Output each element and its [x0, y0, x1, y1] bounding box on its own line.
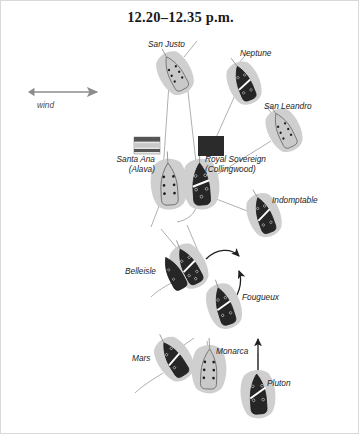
- ship-label-neptune: Neptune: [240, 48, 271, 58]
- ship-neptune[interactable]: [219, 51, 267, 109]
- royal-sovereign-flag: [198, 136, 224, 156]
- track-line-mars-mast: [184, 338, 194, 345]
- ship-label-san-justo: San Justo: [148, 39, 185, 49]
- track-line-mars-wake: [135, 373, 163, 393]
- ship-san-justo[interactable]: [148, 41, 200, 100]
- battle-map-canvas: [1, 1, 359, 434]
- diagram-page: 12.20–12.35 p.m.: [0, 0, 359, 434]
- ship-indomptable[interactable]: [240, 184, 287, 242]
- track-line-san-justo-b: [187, 83, 197, 171]
- ship-label-santa-ana-name: Santa Ana: [99, 154, 155, 164]
- ship-label-indomptable: Indomptable: [272, 195, 318, 205]
- track-line-san-justo-a: [163, 84, 169, 171]
- ship-pluton[interactable]: [239, 369, 277, 420]
- ship-label-monarca: Monarca: [216, 346, 248, 356]
- ship-label-belleisle: Belleisle: [125, 266, 156, 276]
- ship-label-fougueux: Fougueux: [242, 292, 279, 302]
- ship-label-pluton: Pluton: [267, 378, 291, 388]
- santa-ana-flag: [134, 137, 160, 154]
- wind-label: wind: [37, 100, 54, 110]
- ship-label-royal-sovereign: Royal Sovereign (Collingwood): [205, 154, 266, 175]
- track-line-san-justo-mast: [184, 41, 197, 57]
- ship-label-san-leandro: San Leandro: [264, 101, 312, 111]
- ship-label-santa-ana-captain: (Alava): [99, 164, 155, 174]
- ship-label-santa-ana: Santa Ana (Alava): [99, 154, 155, 175]
- ship-label-royal-sovereign-name: Royal Sovereign: [205, 154, 266, 164]
- belleisle-turn-arrow: [206, 250, 239, 259]
- ship-mars[interactable]: [145, 326, 200, 387]
- ship-label-royal-sovereign-captain: (Collingwood): [205, 164, 266, 174]
- ship-label-mars: Mars: [132, 353, 150, 363]
